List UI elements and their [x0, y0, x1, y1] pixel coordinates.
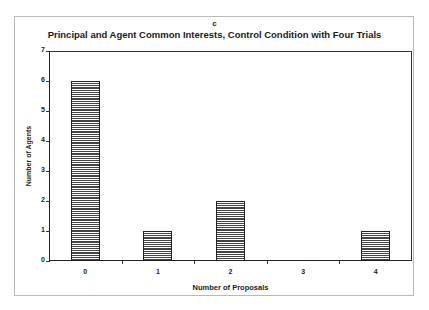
x-tick-label: 0 [75, 268, 95, 275]
y-tick [46, 111, 50, 112]
y-tick-label: 4 [33, 136, 45, 143]
bar-0 [71, 81, 100, 261]
x-tick [339, 261, 340, 264]
x-tick [194, 261, 195, 264]
y-tick [46, 171, 50, 172]
x-tick-label: 4 [366, 268, 386, 275]
x-tick-label: 3 [293, 268, 313, 275]
bar-1 [143, 231, 172, 261]
y-tick-label: 6 [33, 76, 45, 83]
x-tick [122, 261, 123, 264]
y-tick [46, 141, 50, 142]
x-axis-label: Number of Proposals [49, 283, 412, 292]
bar-4 [361, 231, 390, 261]
y-tick [46, 51, 50, 52]
x-tick [267, 261, 268, 264]
y-tick [46, 81, 50, 82]
x-tick-label: 1 [148, 268, 168, 275]
y-tick-label: 1 [33, 226, 45, 233]
y-tick-label: 0 [33, 256, 45, 263]
y-tick-label: 7 [33, 46, 45, 53]
x-tick-label: 2 [221, 268, 241, 275]
panel-label: c [0, 19, 429, 28]
y-axis-label: Number of Agents [25, 126, 32, 186]
y-tick [46, 231, 50, 232]
y-tick-label: 3 [33, 166, 45, 173]
bar-2 [216, 201, 245, 261]
y-tick [46, 201, 50, 202]
y-tick-label: 2 [33, 196, 45, 203]
y-tick [46, 261, 50, 262]
y-tick-label: 5 [33, 106, 45, 113]
chart-title: Principal and Agent Common Interests, Co… [0, 29, 429, 40]
